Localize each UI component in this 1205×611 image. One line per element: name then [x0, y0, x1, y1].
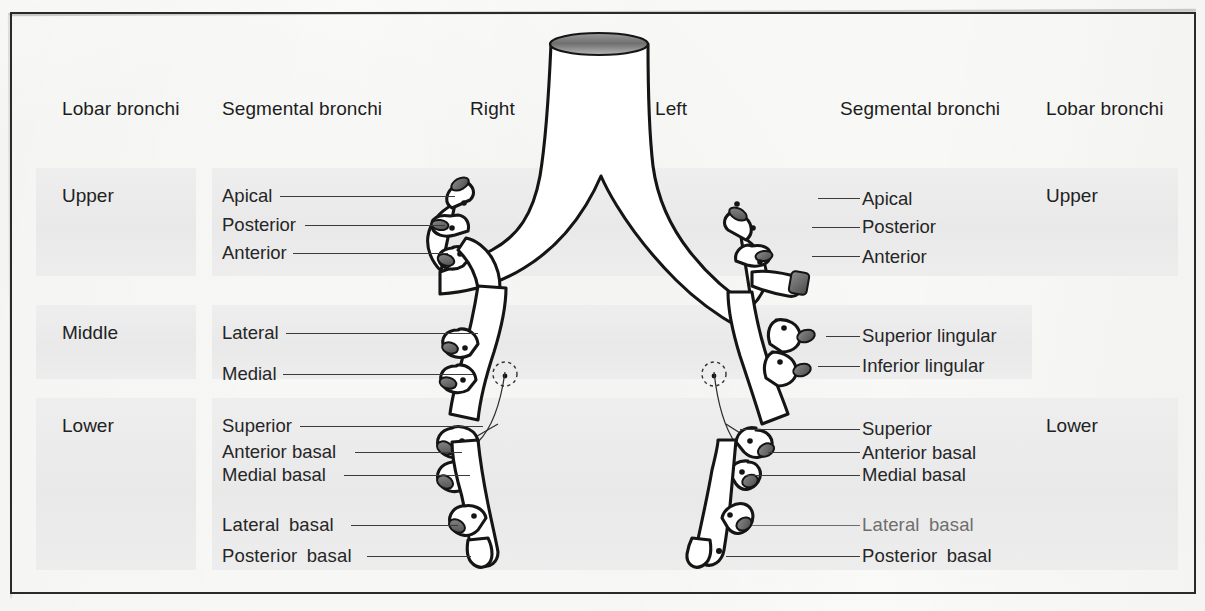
lobar-label-lower: Lower [62, 415, 114, 437]
segmental-label-inferior-lingular: Inferior lingular [862, 355, 984, 377]
leader-line-anterior-basal [768, 452, 860, 453]
leader-line-anterior [293, 253, 448, 254]
leader-line-inferior-lingular [818, 366, 860, 367]
leader-line-superior [740, 429, 860, 430]
segmental-label-anterior: Anterior [222, 242, 287, 264]
segmental-label-superior-lingular: Superior lingular [862, 325, 997, 347]
segmental-label-lateral-basal: Lateral basal [862, 514, 974, 536]
leader-line-posterior-basal [726, 556, 860, 557]
leader-line-medial [283, 374, 473, 375]
leader-line-medial-basal [746, 475, 860, 476]
column-header-side-left: Left [655, 98, 687, 120]
segmental-label-lateral-basal: Lateral basal [222, 514, 334, 536]
segmental-label-posterior-basal: Posterior basal [222, 545, 352, 567]
lobar-label-upper: Upper [1046, 185, 1098, 207]
segmental-label-anterior-basal: Anterior basal [222, 441, 336, 463]
lobar-label-lower: Lower [1046, 415, 1098, 437]
scanned-page: Lobar bronchiSegmental bronchiRightLeftS… [0, 0, 1205, 611]
segmental-label-medial-basal: Medial basal [222, 464, 326, 486]
leader-line-superior-lingular [826, 336, 860, 337]
segmental-label-superior: Superior [222, 415, 292, 437]
column-header-segmental-left: Segmental bronchi [222, 98, 382, 120]
band-upper-left [36, 168, 196, 276]
segmental-label-medial: Medial [222, 363, 277, 385]
column-header-side-right: Right [470, 98, 515, 120]
leader-line-lateral-basal [351, 525, 458, 526]
segmental-label-medial-basal: Medial basal [862, 464, 966, 486]
leader-line-anterior [812, 256, 860, 257]
leader-line-posterior-basal [367, 556, 471, 557]
band-lower-left [36, 398, 196, 570]
leader-line-apical [818, 198, 860, 199]
segmental-label-anterior-basal: Anterior basal [862, 442, 976, 464]
leader-line-apical [280, 196, 455, 197]
segmental-label-posterior: Posterior [862, 216, 936, 238]
leader-line-posterior [812, 227, 860, 228]
segmental-label-apical: Apical [222, 185, 272, 207]
leader-line-superior [300, 426, 483, 427]
segmental-label-lateral: Lateral [222, 322, 279, 344]
column-header-lobar-right: Lobar bronchi [1046, 98, 1164, 120]
segmental-label-posterior-basal: Posterior basal [862, 545, 992, 567]
leader-line-lateral-basal [752, 525, 860, 526]
leader-line-posterior [305, 225, 445, 226]
segmental-label-superior: Superior [862, 418, 932, 440]
lobar-label-middle: Middle [62, 322, 118, 344]
lobar-label-upper: Upper [62, 185, 114, 207]
column-header-segmental-right: Segmental bronchi [840, 98, 1000, 120]
leader-line-lateral [286, 333, 478, 334]
segmental-label-posterior: Posterior [222, 214, 296, 236]
segmental-label-anterior: Anterior [862, 246, 927, 268]
segmental-label-apical: Apical [862, 188, 912, 210]
column-header-lobar-left: Lobar bronchi [62, 98, 180, 120]
leader-line-medial-basal [344, 475, 470, 476]
leader-line-anterior-basal [355, 452, 462, 453]
